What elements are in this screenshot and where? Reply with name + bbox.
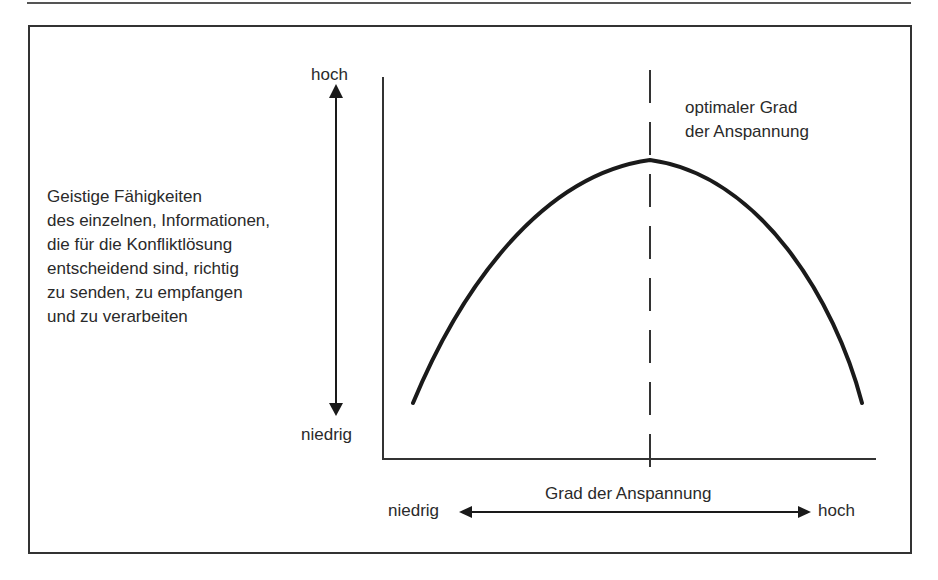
x-axis-low-label: niedrig [388,499,439,523]
y-direction-arrow-icon [329,84,343,416]
y-axis-low-label: niedrig [301,423,352,447]
x-axis-title: Grad der Anspannung [545,482,711,506]
performance-curve [413,160,862,403]
x-axis-high-label: hoch [818,499,855,523]
y-axis-description: Geistige Fähigkeiten des einzelnen, Info… [47,185,270,329]
optimum-annotation: optimaler Grad der Anspannung [685,96,809,144]
x-direction-arrow-icon [459,506,811,518]
y-axis-high-label: hoch [311,63,348,87]
